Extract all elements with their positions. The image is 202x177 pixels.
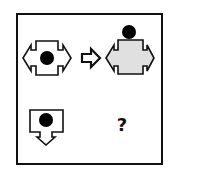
dot-icon — [40, 51, 54, 65]
dot-icon — [39, 113, 53, 127]
target-figure — [106, 25, 154, 74]
question-mark: ? — [112, 112, 132, 138]
query-figure — [30, 110, 63, 145]
puzzle-figures — [0, 0, 202, 177]
double-arrow-box-shape-gray — [106, 40, 154, 74]
dot-icon — [122, 25, 136, 39]
transform-arrow-icon — [82, 49, 100, 67]
source-figure — [23, 41, 71, 75]
